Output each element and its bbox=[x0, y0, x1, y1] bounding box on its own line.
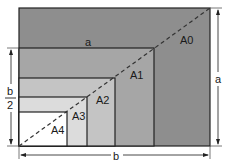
label-right-a: a bbox=[215, 73, 222, 85]
paper-size-diagram: A0 A1 A2 A3 A4 a a b b 2 bbox=[0, 0, 228, 164]
label-left-denominator: 2 bbox=[7, 99, 13, 111]
arrow-left-icon bbox=[20, 153, 26, 157]
arrow-right-icon bbox=[203, 153, 209, 157]
label-top-a: a bbox=[85, 36, 92, 48]
label-a4: A4 bbox=[51, 124, 64, 136]
arrow-up-icon bbox=[216, 9, 220, 15]
label-left-numerator: b bbox=[7, 85, 13, 97]
label-a0: A0 bbox=[180, 34, 193, 46]
arrow-down-left-icon bbox=[9, 139, 13, 145]
label-bottom-b: b bbox=[113, 150, 119, 162]
label-a2: A2 bbox=[96, 94, 109, 106]
label-a3: A3 bbox=[72, 110, 85, 122]
label-a1: A1 bbox=[130, 69, 143, 81]
arrow-up-left-icon bbox=[9, 49, 13, 55]
arrow-down-icon bbox=[216, 139, 220, 145]
